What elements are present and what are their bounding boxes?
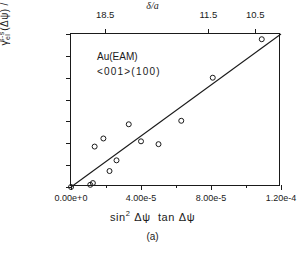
top-tick-mark	[105, 29, 106, 34]
x-tick-mark	[71, 185, 72, 190]
y-tick-mark	[66, 34, 71, 35]
x-axis-title: sin2 Δψ tan Δψ	[0, 209, 305, 223]
x-tick-label: 4.00e-5	[126, 194, 157, 203]
data-layer	[71, 34, 281, 187]
data-point	[126, 122, 131, 127]
y-tick-mark	[66, 121, 71, 122]
figure-panel: δ/a s-sγel (Δψ) / cos (Δψ) Au(EAM) <001>…	[0, 0, 305, 253]
x-axis-title-exponent: 2	[126, 209, 131, 218]
data-point	[92, 144, 97, 149]
data-point	[101, 136, 106, 141]
plot-area: Au(EAM) <001>(100) 0.000.010.020.030.040…	[70, 33, 280, 186]
x-tick-label: 0.00e+0	[55, 194, 88, 203]
data-point	[139, 139, 144, 144]
data-point	[107, 169, 112, 174]
y-tick-mark	[66, 56, 71, 57]
data-point	[259, 37, 264, 42]
x-minor-tick-mark	[246, 185, 247, 188]
data-point	[210, 75, 215, 80]
top-tick-mark	[255, 29, 256, 34]
y-tick-mark	[66, 165, 71, 166]
y-tick-mark	[66, 100, 71, 101]
panel-caption: (a)	[0, 231, 305, 242]
x-tick-label: 8.00e-5	[196, 194, 227, 203]
data-point	[114, 158, 119, 163]
data-point	[156, 142, 161, 147]
x-minor-tick-mark	[106, 185, 107, 188]
y-tick-mark	[66, 143, 71, 144]
x-minor-tick-mark	[176, 185, 177, 188]
x-tick-mark	[281, 185, 282, 190]
x-tick-mark	[141, 185, 142, 190]
top-axis-title-rest: /a	[151, 0, 159, 11]
top-tick-label: 10.5	[246, 10, 265, 20]
y-tick-mark	[66, 78, 71, 79]
top-tick-label: 11.5	[199, 10, 217, 20]
top-tick-mark	[208, 29, 209, 34]
x-tick-mark	[211, 185, 212, 190]
top-tick-label: 18.5	[96, 10, 115, 20]
data-point	[179, 118, 184, 123]
y-axis-title: s-sγel (Δψ) / cos (Δψ)	[0, 0, 11, 42]
top-axis-title-delta: δ	[146, 0, 151, 11]
x-tick-label: 1.20e-4	[266, 194, 297, 203]
fit-line	[71, 34, 281, 187]
y-axis-title-subscript: el	[4, 34, 11, 40]
